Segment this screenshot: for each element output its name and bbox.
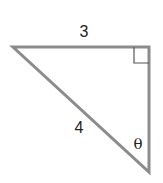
side-label-top: 3: [80, 24, 89, 40]
right-triangle: [13, 47, 149, 172]
right-angle-marker: [134, 47, 149, 63]
side-label-hypotenuse: 4: [75, 120, 84, 136]
angle-label-theta: θ: [133, 136, 142, 152]
